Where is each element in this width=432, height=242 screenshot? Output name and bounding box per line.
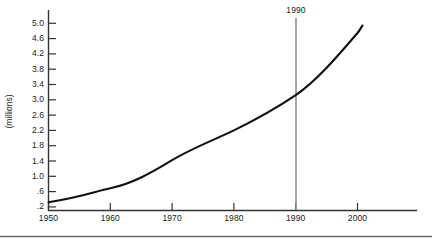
x-tick-label: 1970 — [152, 214, 192, 223]
y-axis-title: (millions) — [5, 81, 14, 143]
x-tick-label: 2000 — [338, 214, 378, 223]
x-tick-label: 1960 — [90, 214, 130, 223]
x-axis-tick-labels: 1950 1960 1970 1980 1990 2000 — [0, 0, 432, 242]
chart-figure: 5.0 4.6 4.2 3.8 3.4 3.0 2.6 2.2 1.8 1.4 … — [0, 0, 432, 242]
x-tick-label: 1950 — [29, 214, 69, 223]
year-marker-label: 1990 — [276, 5, 316, 15]
x-tick-label: 1980 — [214, 214, 254, 223]
x-tick-label: 1990 — [276, 214, 316, 223]
